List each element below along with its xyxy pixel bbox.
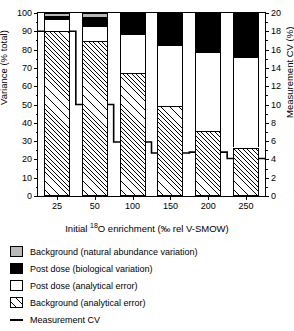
bar-segment: [233, 57, 259, 148]
bar-segment: [120, 13, 146, 14]
bar-25: [44, 13, 70, 196]
x-axis-tick: [57, 196, 58, 200]
bar-segment: [82, 26, 108, 42]
y-axis-left-tick-label: 20: [22, 154, 32, 164]
y-axis-right-tick: [265, 123, 269, 124]
y-axis-right-tick: [265, 132, 268, 133]
y-axis-right-tick-label: 18: [271, 26, 281, 36]
bar-150: [157, 13, 183, 196]
x-axis-title: Initial 18O enrichment (‰ rel V-SMOW): [0, 222, 294, 234]
y-axis-left-tick: [36, 169, 39, 170]
x-axis-tick-label: 150: [163, 201, 178, 211]
y-axis-left-tick: [34, 86, 38, 87]
y-axis-left-tick-label: 90: [22, 26, 32, 36]
x-axis-tick: [208, 196, 209, 200]
bar-250: [233, 13, 259, 196]
y-axis-right-tick: [265, 150, 268, 151]
x-axis-tick-label: 50: [90, 201, 100, 211]
bar-segment: [120, 14, 146, 34]
bar-segment: [157, 106, 183, 196]
bar-segment: [195, 13, 221, 52]
y-axis-left-tick: [36, 114, 39, 115]
y-axis-left-tick-label: 0: [27, 191, 32, 201]
y-axis-right-tick: [265, 169, 268, 170]
legend-label: Background (natural abundance variation): [30, 247, 198, 257]
y-axis-right-tick-label: 2: [271, 173, 276, 183]
y-axis-left-tick-label: 40: [22, 118, 32, 128]
legend-swatch-line: [10, 314, 23, 325]
y-axis-right-tick: [265, 50, 269, 51]
x-axis-tick: [170, 196, 171, 200]
y-axis-right-tick: [265, 40, 268, 41]
y-axis-left-tick: [34, 105, 38, 106]
y-axis-right-tick: [265, 196, 269, 197]
y-axis-right-tick: [265, 178, 269, 179]
x-axis-tick-label: 100: [125, 201, 140, 211]
bar-segment: [157, 14, 183, 45]
y-axis-right-tick: [265, 187, 268, 188]
y-axis-left-tick-label: 100: [17, 8, 32, 18]
y-axis-left-tick: [36, 132, 39, 133]
y-axis-right-tick: [265, 31, 269, 32]
y-axis-right-tick-label: 14: [271, 63, 281, 73]
legend-item-background-natural-abundance: Background (natural abundance variation): [10, 243, 294, 260]
y-axis-left-tick-label: 60: [22, 81, 32, 91]
y-axis-right-tick-label: 12: [271, 81, 281, 91]
bar-100: [120, 13, 146, 196]
legend-label: Measurement CV: [30, 315, 100, 325]
legend-item-background-analytical: Background (analytical error): [10, 294, 294, 311]
x-axis-tick-label: 25: [52, 201, 62, 211]
bar-segment: [44, 13, 70, 16]
bar-segment: [44, 16, 70, 20]
bar-segment: [120, 73, 146, 196]
bar-segment: [157, 45, 183, 106]
y-axis-right-tick-label: 0: [271, 191, 276, 201]
y-axis-left-tick-label: 30: [22, 136, 32, 146]
x-axis-title-pre: Initial: [65, 223, 90, 234]
y-axis-left-tick: [34, 141, 38, 142]
bar-segment: [44, 31, 70, 196]
plot-area: 2550100150200250010203040506070809010002…: [37, 12, 266, 197]
legend-swatch-hatch: [10, 297, 23, 308]
y-axis-left-tick: [36, 150, 39, 151]
x-axis-tick-label: 250: [239, 201, 254, 211]
measurement-cv-path: [38, 31, 265, 159]
bar-segment: [233, 148, 259, 196]
x-axis-title-superscript: 18: [90, 222, 98, 229]
y-axis-left-tick: [34, 50, 38, 51]
bar-segment: [195, 52, 221, 131]
y-axis-left-tick: [34, 123, 38, 124]
y-axis-right-tick-label: 16: [271, 45, 281, 55]
y-axis-left-tick-label: 80: [22, 45, 32, 55]
y-axis-right-tick: [265, 159, 269, 160]
y-axis-left-tick: [34, 13, 38, 14]
x-axis-title-post: O enrichment (‰ rel V-SMOW): [98, 223, 229, 234]
bar-segment: [82, 13, 108, 17]
y-axis-left-tick-label: 10: [22, 173, 32, 183]
bar-segment: [82, 41, 108, 196]
y-axis-right-title: Measurement CV (%): [284, 27, 294, 118]
legend-item-measurement-cv: Measurement CV: [10, 311, 294, 328]
bar-segment: [82, 17, 108, 26]
x-axis-tick: [246, 196, 247, 200]
y-axis-right-tick: [265, 77, 268, 78]
legend-item-post-dose-biological: Post dose (biological variation): [10, 260, 294, 277]
y-axis-left-tick: [34, 178, 38, 179]
y-axis-right-tick: [265, 86, 269, 87]
bar-50: [82, 13, 108, 196]
y-axis-right-tick: [265, 59, 268, 60]
y-axis-left-tick-label: 50: [22, 100, 32, 110]
legend-swatch-black: [10, 263, 23, 274]
y-axis-left-tick: [34, 68, 38, 69]
y-axis-left-tick: [36, 77, 39, 78]
legend-swatch-white: [10, 280, 23, 291]
chart-legend: Background (natural abundance variation)…: [10, 243, 294, 328]
y-axis-right-tick-label: 6: [271, 136, 276, 146]
y-axis-right-tick: [265, 13, 269, 14]
y-axis-right-tick: [265, 22, 268, 23]
legend-label: Background (analytical error): [30, 298, 146, 308]
y-axis-left-title: Variance (% total): [0, 30, 9, 105]
y-axis-left-tick: [36, 187, 39, 188]
y-axis-right-tick-label: 10: [271, 100, 281, 110]
y-axis-right-tick: [265, 114, 268, 115]
